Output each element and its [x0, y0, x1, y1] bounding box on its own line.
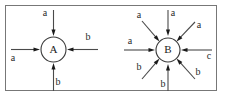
a-edge-a-top-arrowhead: [52, 30, 56, 37]
a-edge-a-top-label: a: [43, 7, 48, 18]
b-edge-c-right-arrowhead: [181, 48, 188, 52]
b-edge-b-bottomright-line: [180, 62, 195, 79]
b-edge-a-topleft-label: a: [137, 9, 142, 20]
b-edge-b-bottom-label: b: [161, 78, 166, 89]
node-a-label: A: [50, 43, 58, 55]
b-edge-a-left-arrowhead: [149, 48, 156, 52]
b-edge-b-bottomleft-line: [142, 63, 156, 79]
b-edge-b-bottomright-label: b: [196, 66, 201, 77]
figure-border: [6, 6, 217, 91]
b-edge-c-right-label: c: [207, 50, 212, 61]
b-edge-a-top-arrowhead: [166, 30, 170, 37]
b-edge-b-bottom-arrowhead: [166, 64, 170, 71]
b-edge-a-topright-label: a: [197, 19, 202, 30]
a-edge-a-left-arrowhead: [34, 48, 41, 52]
a-edge-b-bottom-label: b: [56, 76, 61, 87]
b-edge-a-topleft-line: [142, 21, 156, 37]
a-edge-b-right-arrowhead: [67, 48, 74, 52]
b-edge-a-topright-line: [180, 22, 195, 38]
a-edge-a-left-label: a: [11, 52, 16, 63]
a-edge-b-right-label: b: [86, 31, 91, 42]
b-edge-a-top-label: a: [171, 7, 176, 18]
node-b-label: B: [164, 43, 171, 55]
b-edge-a-left-label: a: [128, 35, 133, 46]
a-edge-b-bottom-arrowhead: [52, 63, 56, 70]
graph-diagram-canvas: AB aabbaaaacbbb: [0, 0, 227, 100]
diagram-page: AB aabbaaaacbbb: [0, 0, 227, 100]
b-edge-b-bottomleft-label: b: [137, 61, 142, 72]
